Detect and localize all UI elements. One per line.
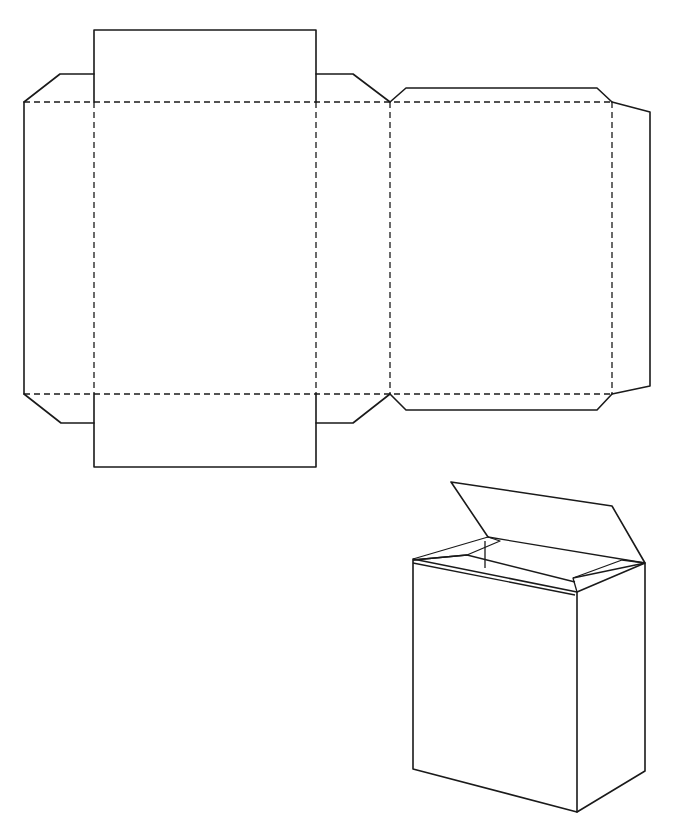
glue-tab	[612, 102, 650, 394]
box-front-face	[413, 559, 577, 812]
fold-lines	[24, 102, 612, 394]
box-net	[24, 30, 650, 467]
box-lid	[451, 482, 645, 563]
box-template-diagram: Box template (net) and assembled box	[0, 0, 677, 831]
top-back-flap	[390, 88, 612, 102]
diagram-canvas	[0, 0, 677, 831]
top-main-flap	[94, 30, 316, 102]
box-side-face	[577, 563, 645, 812]
bottom-main-flap	[94, 394, 316, 467]
lid-hinge-edge	[488, 537, 645, 563]
assembled-box	[413, 482, 645, 812]
top-left-dust-flap	[24, 74, 94, 102]
front-inner-rim	[413, 555, 575, 582]
top-right-dust-flap	[316, 74, 390, 102]
bottom-right-dust-flap	[316, 394, 390, 423]
bottom-left-dust-flap	[24, 394, 94, 423]
bottom-back-flap	[390, 394, 612, 410]
front-top-double-edge	[413, 563, 575, 595]
